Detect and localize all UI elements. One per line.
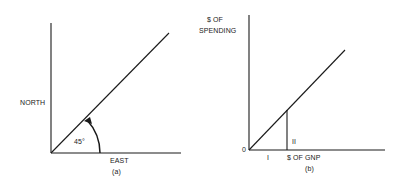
panel-b-y-axis-label-line1: $ OF — [207, 16, 223, 24]
panel-b-caption: (b) — [305, 165, 314, 173]
panel-b-region-ii-label: II — [292, 138, 296, 146]
panel-b-45-degree-line — [249, 50, 345, 150]
panel-a-y-axis-label: NORTH — [20, 99, 45, 107]
panel-a-45-degree-line — [51, 33, 169, 153]
panel-b-origin-label: 0 — [242, 146, 246, 154]
panel-a-x-axis-label: EAST — [110, 157, 129, 165]
panel-b-y-axis-label-line2: SPENDING — [199, 27, 236, 35]
panel-b-region-i-label: I — [267, 154, 269, 162]
panel-a-angle-arc — [87, 120, 100, 153]
panel-a-angle-label: 45° — [74, 138, 85, 146]
panel-a-caption: (a) — [112, 168, 121, 176]
panel-b-x-axis-label: $ OF GNP — [287, 154, 320, 162]
